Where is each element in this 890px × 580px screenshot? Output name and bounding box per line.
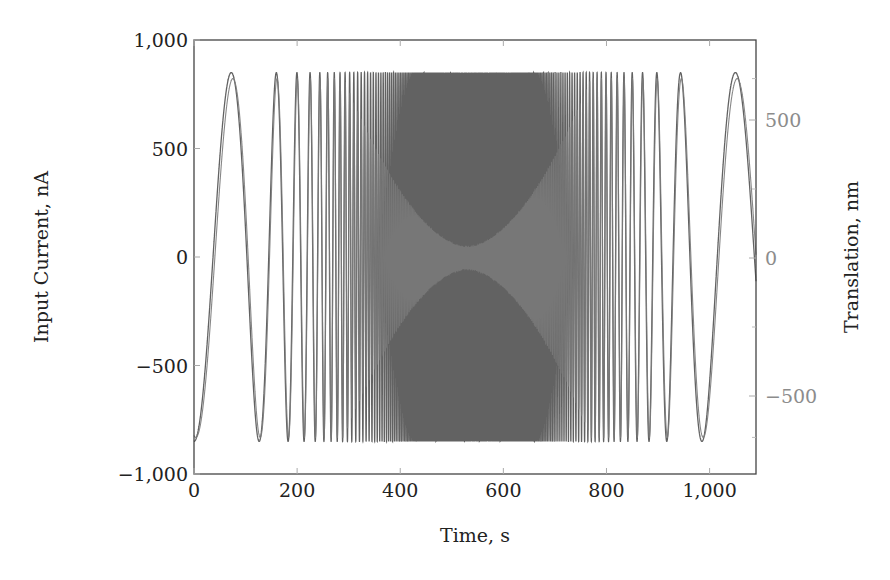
chart: 02004006008001,000−1,000−50005001,000−50… [0,0,890,580]
y2-tick-label: 500 [765,109,801,131]
x-tick-label: 800 [588,479,624,501]
x-tick-label: 0 [188,479,200,501]
y-tick-label: 0 [176,246,188,268]
y2-tick-label: −500 [765,385,817,407]
series-layer [194,73,756,442]
y-tick-label: 500 [152,138,188,160]
x-tick-label: 1,000 [682,479,736,501]
y-axis-label: Input Current, nA [30,171,52,343]
y-tick-label: −1,000 [118,463,188,485]
x-tick-label: 200 [279,479,315,501]
x-tick-label: 400 [382,479,418,501]
y-tick-label: −500 [136,355,188,377]
y2-tick-label: 0 [765,247,777,269]
x-tick-label: 600 [485,479,521,501]
x-axis-label: Time, s [440,524,510,546]
y2-axis-label: Translation, nm [840,181,862,333]
y-tick-label: 1,000 [134,29,188,51]
